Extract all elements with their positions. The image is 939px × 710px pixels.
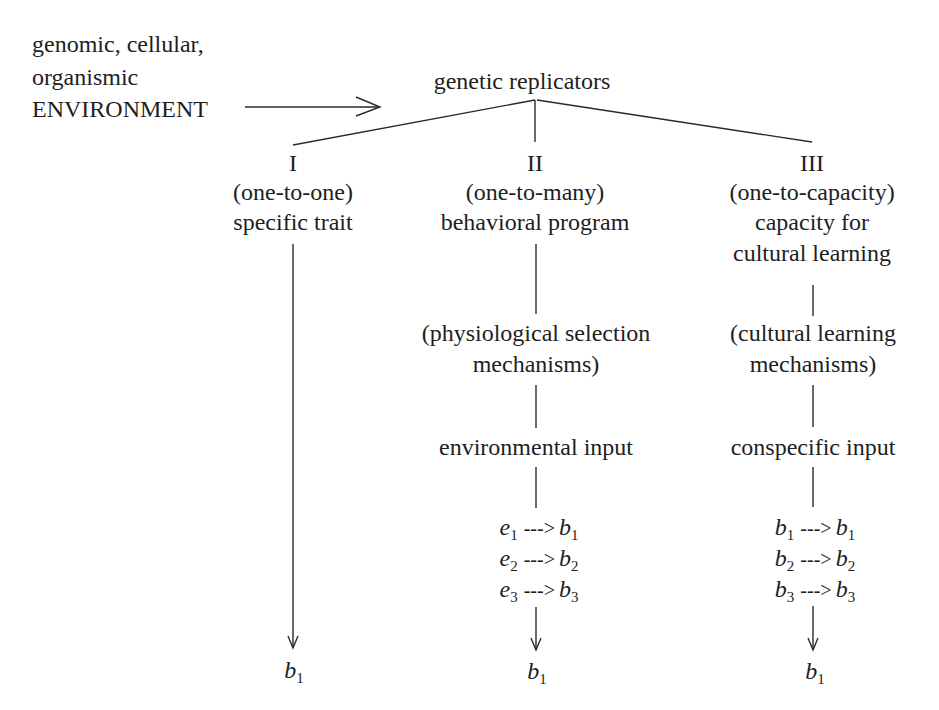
column-III-input: conspecific input (731, 432, 896, 462)
column-III-numeral: III (800, 148, 824, 178)
column-II-mechanism-line-1: (physiological selection (422, 318, 651, 348)
column-I-outcome: b1 (284, 655, 304, 693)
column-II-input: environmental input (439, 432, 633, 462)
column-III-mechanism-line-1: (cultural learning (730, 318, 896, 348)
column-II-title: behavioral program (441, 207, 630, 237)
column-II-numeral: II (527, 148, 543, 178)
column-II-relation: (one-to-many) (466, 177, 605, 207)
environment-label-line-3: ENVIRONMENT (32, 94, 208, 124)
column-III-mechanism-line-2: mechanisms) (750, 349, 877, 379)
column-II-outcome: b1 (527, 656, 547, 694)
column-III-relation: (one-to-capacity) (729, 177, 894, 207)
column-III-outcome: b1 (805, 656, 825, 694)
environment-label-line-1: genomic, cellular, (32, 29, 204, 59)
column-I-relation: (one-to-one) (233, 177, 353, 207)
column-I-title: specific trait (233, 207, 352, 237)
column-III-title-line-2: cultural learning (733, 238, 891, 268)
root-node-label: genetic replicators (434, 66, 611, 96)
column-I-numeral: I (289, 148, 297, 178)
environment-label-line-2: organismic (32, 62, 138, 92)
column-II-mapping-row: e3--->b3 (500, 574, 579, 613)
column-II-mechanism-line-2: mechanisms) (473, 349, 600, 379)
branch-line-III (537, 100, 812, 142)
column-III-mapping-row: b3--->b3 (775, 574, 855, 613)
column-III-title-line-1: capacity for (755, 207, 869, 237)
